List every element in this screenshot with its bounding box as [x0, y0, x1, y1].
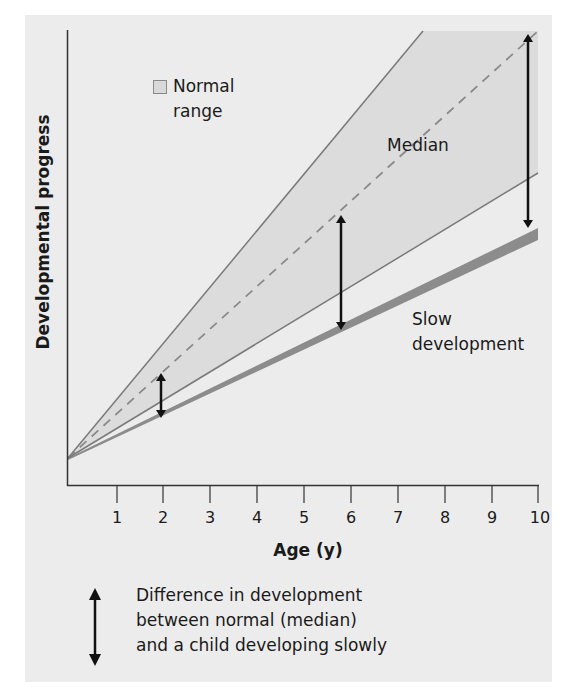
x-tick-label: 9 [487, 508, 497, 527]
legend-range-label: range [173, 99, 222, 124]
legend-normal-label: Normal [173, 74, 235, 99]
x-tick-label: 1 [112, 508, 122, 527]
x-tick-label: 2 [158, 508, 168, 527]
double-arrow-icon [85, 588, 105, 668]
x-tick-label: 3 [205, 508, 215, 527]
x-tick-label: 7 [393, 508, 403, 527]
x-ticks [117, 486, 538, 503]
normal-range-area [68, 31, 538, 458]
note-line: Difference in development [136, 583, 387, 608]
note-line: between normal (median) [136, 608, 387, 633]
x-tick-label: 10 [530, 508, 550, 527]
x-axis-label: Age (y) [273, 540, 342, 560]
note-line: and a child developing slowly [136, 633, 387, 658]
y-axis-label: Developmental progress [33, 114, 53, 349]
x-tick-label: 8 [440, 508, 450, 527]
median-annotation: Median [387, 133, 449, 158]
normal-range-swatch-icon [153, 80, 167, 94]
x-tick-label: 4 [252, 508, 262, 527]
arrow-legend-note: Difference in development between normal… [136, 583, 387, 658]
x-tick-label: 5 [299, 508, 309, 527]
slow-annotation-line1: Slow [412, 307, 452, 332]
x-tick-label: 6 [346, 508, 356, 527]
slow-annotation-line2: development [412, 332, 524, 357]
